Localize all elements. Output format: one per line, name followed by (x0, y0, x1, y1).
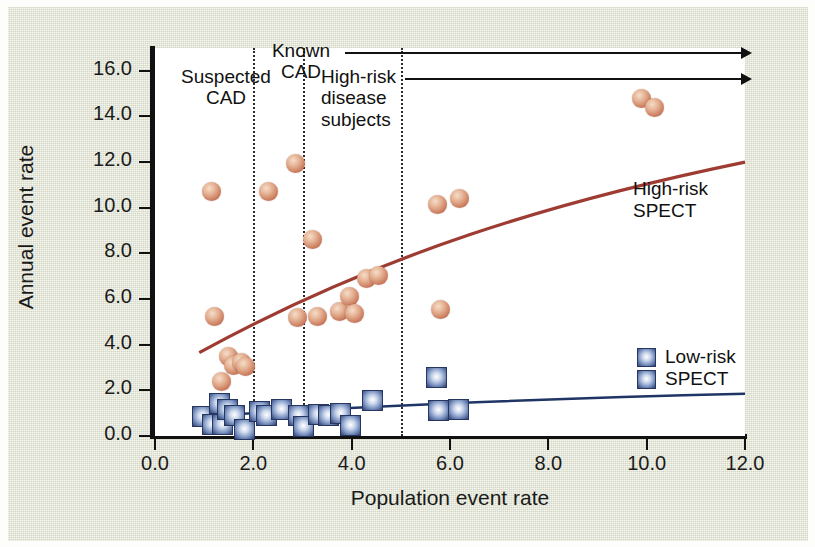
legend-label: High-risk (633, 178, 708, 200)
y-tick-mark (139, 344, 150, 346)
data-point-high-risk (205, 307, 224, 326)
x-tick-label: 8.0 (513, 452, 583, 475)
legend-label: SPECT (633, 200, 708, 222)
x-tick-mark (154, 439, 156, 450)
data-point-low-risk (340, 415, 361, 436)
page-margin-right (808, 0, 815, 547)
x-tick-label: 0.0 (120, 452, 190, 475)
plot-area: SuspectedCADKnownCADHigh-riskdiseasesubj… (155, 48, 745, 436)
y-tick-mark (139, 115, 150, 117)
y-tick-label: 12.0 (76, 148, 132, 171)
page-margin-bottom (0, 541, 815, 547)
data-point-high-risk (259, 182, 278, 201)
data-point-low-risk (362, 390, 383, 411)
x-tick-mark (351, 439, 353, 450)
data-point-high-risk (212, 372, 231, 391)
data-point-low-risk (426, 367, 447, 388)
x-tick-label: 10.0 (612, 452, 682, 475)
x-tick-label: 6.0 (415, 452, 485, 475)
y-tick-label: 8.0 (76, 239, 132, 262)
y-tick-mark (139, 70, 150, 72)
x-tick-mark (449, 439, 451, 450)
x-tick-label: 12.0 (710, 452, 780, 475)
y-tick-mark (139, 161, 150, 163)
legend-entry-low-risk-spect: Low-riskSPECT (665, 346, 736, 390)
x-tick-mark (547, 439, 549, 450)
x-tick-mark (744, 439, 746, 450)
y-tick-label: 16.0 (76, 57, 132, 80)
legend-entry-high-risk-spect: High-riskSPECT (633, 178, 708, 222)
y-tick-mark (139, 435, 150, 437)
data-point-high-risk (369, 266, 388, 285)
y-tick-label: 14.0 (76, 102, 132, 125)
y-tick-label: 6.0 (76, 285, 132, 308)
data-point-high-risk (303, 230, 322, 249)
x-tick-label: 2.0 (218, 452, 288, 475)
y-tick-mark (139, 252, 150, 254)
data-point-low-risk (448, 399, 469, 420)
data-point-high-risk (431, 300, 450, 319)
legend-marker-square (637, 370, 656, 389)
y-tick-label: 10.0 (76, 194, 132, 217)
x-tick-mark (646, 439, 648, 450)
figure-container: Annual event rate Population event rate … (0, 0, 815, 547)
legend-label: SPECT (665, 368, 736, 390)
x-tick-label: 4.0 (317, 452, 387, 475)
data-point-high-risk (345, 304, 364, 323)
data-point-high-risk (428, 195, 447, 214)
legend-label: Low-risk (665, 346, 736, 368)
y-tick-label: 2.0 (76, 376, 132, 399)
y-tick-label: 0.0 (76, 422, 132, 445)
legend-marker-square (637, 348, 656, 367)
data-point-high-risk (308, 307, 327, 326)
data-point-high-risk (288, 308, 307, 327)
y-tick-mark (139, 298, 150, 300)
data-point-high-risk (286, 154, 305, 173)
y-tick-mark (139, 207, 150, 209)
y-tick-label: 4.0 (76, 331, 132, 354)
y-tick-mark (139, 389, 150, 391)
page-margin-left (0, 0, 8, 547)
y-axis-label: Annual event rate (14, 102, 38, 352)
data-point-high-risk (645, 98, 664, 117)
x-tick-mark (252, 439, 254, 450)
data-point-low-risk (428, 400, 449, 421)
page-margin-top (0, 0, 815, 7)
x-axis-label: Population event rate (155, 486, 745, 510)
